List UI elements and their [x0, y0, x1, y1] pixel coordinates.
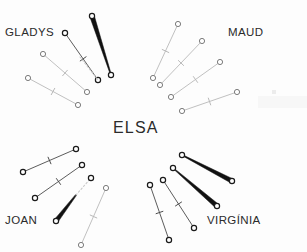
virginia-seg-4-start-marker	[147, 182, 152, 187]
gladys-seg-5-tick	[51, 88, 54, 94]
gladys-seg-5-start-marker	[25, 75, 30, 80]
joan-seg-2-tick	[56, 179, 60, 185]
gladys-seg-1	[90, 15, 112, 75]
maud-seg-3-start-marker	[168, 94, 173, 99]
label-maud: MAUD	[228, 26, 263, 38]
joan-seg-3	[54, 195, 76, 223]
maud-seg-4-end-marker	[234, 89, 239, 94]
joan-seg-4	[76, 178, 91, 195]
joan-group	[20, 146, 108, 247]
joan-seg-1-end-marker	[73, 146, 78, 151]
virginia-seg-2-start-marker	[170, 165, 175, 170]
virginia-seg-2	[173, 168, 219, 208]
maud-seg-2-end-marker	[199, 38, 204, 43]
gladys-seg-5-end-marker	[75, 102, 80, 107]
virginia-seg-4-end-marker	[166, 237, 171, 242]
maud-group	[150, 21, 239, 113]
label-elsa: ELSA	[113, 119, 159, 137]
virginia-seg-3-start-marker	[160, 177, 165, 182]
gladys-seg-1-end-marker	[108, 72, 113, 77]
joan-seg-5-end-marker	[103, 185, 108, 190]
label-virginia: VIRGÍNIA	[207, 214, 261, 226]
virginia-seg-3-end-marker	[191, 225, 196, 230]
gladys-seg-1-start-marker	[89, 13, 94, 18]
joan-seg-2-start-marker	[32, 195, 37, 200]
maud-seg-2-start-marker	[157, 82, 162, 87]
gladys-seg-2-start-marker	[62, 30, 67, 35]
gladys-seg-3	[80, 57, 98, 80]
joan-seg-5-start-marker	[78, 242, 83, 247]
gladys-seg-4-start-marker	[40, 51, 45, 56]
label-gladys: GLADYS	[5, 26, 54, 38]
figure-canvas: GLADYS MAUD ELSA JOAN VIRGÍNIA	[0, 0, 307, 252]
virginia-seg-1-start-marker	[179, 152, 184, 157]
maud-seg-3-tick	[193, 77, 197, 83]
virginia-seg-3-tick	[175, 202, 181, 206]
virginia-group	[147, 152, 234, 242]
joan-seg-1-start-marker	[20, 169, 25, 174]
joan-seg-4-end-marker	[88, 175, 93, 180]
joan-seg-2-end-marker	[79, 162, 84, 167]
maud-seg-1-end-marker	[175, 21, 180, 26]
label-joan: JOAN	[5, 214, 37, 226]
maud-seg-4-start-marker	[179, 108, 184, 113]
virginia-seg-2-end-marker	[214, 203, 219, 208]
maud-seg-3-end-marker	[217, 59, 222, 64]
maud-seg-1-start-marker	[150, 75, 155, 80]
joan-seg-3-start-marker	[53, 218, 58, 223]
virginia-seg-1-end-marker	[229, 178, 234, 183]
gladys-seg-4-end-marker	[84, 89, 89, 94]
virginia-seg-1	[182, 155, 233, 183]
